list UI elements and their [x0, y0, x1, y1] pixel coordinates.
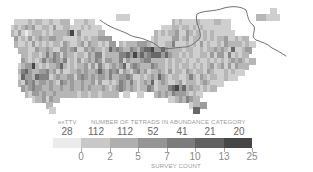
- tetrad-cell: [259, 14, 266, 21]
- tetrad-cell: [53, 96, 60, 103]
- legend-count-0-2: 112: [82, 126, 110, 137]
- legend-tick: [81, 148, 82, 152]
- tetrad-cell: [200, 102, 207, 109]
- legend-swatch-13-25: [224, 138, 252, 148]
- legend-swatch-extinct: [53, 138, 81, 148]
- tetrad-cell: [105, 91, 112, 98]
- tetrad-cell: [249, 58, 256, 65]
- tetrad-cell: [112, 91, 119, 98]
- legend-tick-label: 2: [100, 151, 120, 162]
- legend-count-10-13: 21: [196, 126, 224, 137]
- abundance-grid-map: [0, 0, 313, 118]
- legend-title: NUMBER OF TETRADS IN ABUNDANCE CATEGORY: [91, 119, 246, 125]
- legend-tick: [167, 148, 168, 152]
- tetrad-cell: [35, 96, 42, 103]
- legend-tick-label: 5: [128, 151, 148, 162]
- tetrad-cell: [210, 85, 217, 92]
- tetrad-cell: [238, 69, 245, 76]
- legend-swatch-5-7: [138, 138, 167, 148]
- legend-axis-label: SURVEY COUNT: [136, 163, 216, 169]
- tetrad-cell: [217, 80, 224, 87]
- legend-tick: [252, 148, 253, 152]
- legend-count-13-25: 20: [225, 126, 253, 137]
- legend-tick-label: 13: [214, 151, 234, 162]
- legend-swatch-0-2: [81, 138, 110, 148]
- tetrad-cell: [193, 107, 200, 114]
- legend-swatch-10-13: [195, 138, 224, 148]
- tetrad-cell: [231, 74, 238, 81]
- legend-count-extinct: 28: [53, 126, 81, 137]
- tetrad-cell: [123, 14, 130, 21]
- tetrad-cell: [168, 96, 175, 103]
- legend-count-2-5: 112: [111, 126, 139, 137]
- tetrad-cell: [273, 14, 280, 21]
- legend-tick: [195, 148, 196, 152]
- legend-extinct-label: exTTV: [58, 119, 77, 125]
- legend-tick-label: 10: [185, 151, 205, 162]
- tetrad-cell: [137, 91, 144, 98]
- legend-tick-label: 0: [71, 151, 91, 162]
- tetrad-cell: [266, 14, 273, 21]
- legend-swatch-7-10: [167, 138, 195, 148]
- tetrad-cell: [49, 107, 56, 114]
- legend-count-7-10: 41: [168, 126, 196, 137]
- legend-tick: [224, 148, 225, 152]
- legend-tick: [110, 148, 111, 152]
- tetrad-cell: [123, 91, 130, 98]
- legend-tick-label: 25: [242, 151, 262, 162]
- legend-tick: [138, 148, 139, 152]
- legend-tick-label: 7: [157, 151, 177, 162]
- legend-swatch-2-5: [110, 138, 138, 148]
- tetrad-cell: [116, 14, 123, 21]
- legend-count-5-7: 52: [139, 126, 167, 137]
